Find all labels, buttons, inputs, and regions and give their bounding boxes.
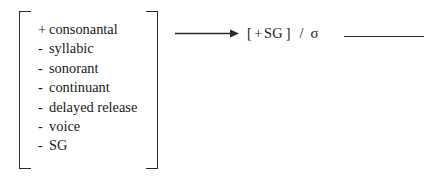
output-bracket-open: [	[247, 22, 252, 44]
matrix-left-bracket	[19, 11, 31, 169]
feature-name: continuant	[49, 78, 110, 97]
feature-sign: -	[38, 136, 49, 155]
feature-row: - sonorant	[38, 59, 154, 78]
environment-slash: /	[300, 22, 304, 44]
feature-sign: -	[38, 98, 49, 117]
feature-row: - continuant	[38, 78, 154, 97]
output-sign: +	[254, 22, 262, 44]
feature-list: + consonantal - syllabic - sonorant - co…	[38, 20, 154, 156]
feature-name: delayed release	[49, 98, 137, 117]
feature-sign: -	[38, 117, 49, 136]
feature-row: - delayed release	[38, 98, 154, 117]
feature-sign: -	[38, 39, 49, 58]
feature-matrix: + consonantal - syllabic - sonorant - co…	[19, 11, 158, 169]
feature-name: sonorant	[49, 59, 99, 78]
feature-sign: +	[38, 20, 49, 39]
rule-arrow-icon	[175, 26, 239, 41]
feature-sign: -	[38, 78, 49, 97]
feature-sign: -	[38, 59, 49, 78]
feature-row: - voice	[38, 117, 154, 136]
feature-name: syllabic	[49, 39, 94, 58]
output-bracket-close: ]	[286, 22, 291, 44]
environment-blank-line	[344, 36, 424, 37]
feature-name: voice	[49, 117, 80, 136]
feature-row: - syllabic	[38, 39, 154, 58]
phonological-rule-diagram: + consonantal - syllabic - sonorant - co…	[0, 0, 443, 176]
syllable-sigma-symbol: σ	[311, 22, 319, 44]
feature-row: - SG	[38, 136, 154, 155]
output-feature: SG	[264, 22, 283, 44]
rule-output: [ + SG ] / σ	[247, 22, 319, 44]
feature-name: consonantal	[49, 20, 118, 39]
feature-name: SG	[49, 136, 67, 155]
feature-row: + consonantal	[38, 20, 154, 39]
